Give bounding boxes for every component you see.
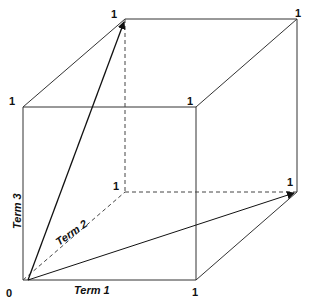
cube-diagram: 0 1 1 1 1 1 1 1 Term 1 Term 2 Term 3 <box>0 0 309 302</box>
front-bottom-right-label: 1 <box>192 286 198 298</box>
back-top-left-label: 1 <box>111 8 117 20</box>
back-bottom-right-label: 1 <box>287 176 293 188</box>
term3-axis-label: Term 3 <box>11 193 23 229</box>
top-right-diagonal-edge <box>196 19 297 107</box>
origin-label: 0 <box>6 287 12 299</box>
front-top-right-label: 1 <box>187 95 193 107</box>
term2-axis-label: Term 2 <box>53 217 89 247</box>
bottom-right-diagonal-edge <box>196 192 297 280</box>
term1-axis-label: Term 1 <box>74 284 110 296</box>
front-face <box>23 107 196 280</box>
back-bottom-left-label: 1 <box>113 180 119 192</box>
top-left-diagonal-edge <box>23 19 125 107</box>
front-top-left-label: 1 <box>9 95 15 107</box>
back-top-right-label: 1 <box>295 7 301 19</box>
